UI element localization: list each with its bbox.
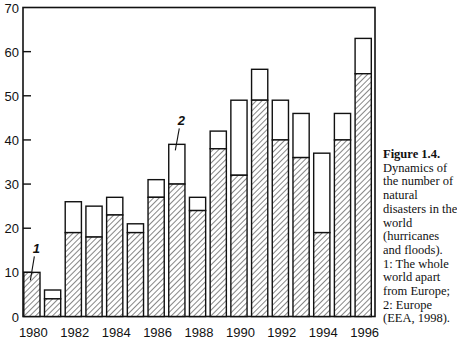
y-tick-label: 60	[5, 45, 19, 60]
x-tick-label: 1996	[350, 325, 379, 340]
caption-line: disasters in the	[383, 203, 457, 217]
bar-segment-world-ex-europe	[127, 233, 143, 317]
bar-1989	[210, 131, 226, 316]
y-tick-label: 20	[5, 221, 19, 236]
bar-1994	[314, 153, 330, 316]
bar-segment-europe	[127, 224, 143, 233]
bar-1987	[169, 144, 185, 316]
x-tick-label: 1994	[309, 325, 338, 340]
bar-1991	[252, 69, 268, 316]
bar-segment-world-ex-europe	[334, 140, 350, 317]
bar-1993	[293, 113, 309, 316]
x-tick-label: 1990	[226, 325, 255, 340]
x-tick-label: 1988	[185, 325, 214, 340]
caption-line: world apart	[383, 271, 457, 285]
caption-line: (hurricanes	[383, 230, 457, 244]
x-axis: 198019821984198619881990199219941996	[19, 325, 379, 340]
bar-1996	[355, 38, 371, 316]
bar-segment-europe	[334, 113, 350, 139]
bar-segment-europe	[148, 180, 164, 198]
caption-line: natural	[383, 189, 457, 203]
bar-segment-europe	[355, 38, 371, 73]
bar-segment-europe	[293, 113, 309, 157]
caption-line: Dynamics of	[383, 162, 457, 176]
bar-segment-world-ex-europe	[189, 211, 205, 317]
bar-1980	[24, 272, 40, 316]
bar-segment-world-ex-europe	[45, 299, 61, 317]
bar-segment-europe	[272, 100, 288, 140]
bar-segment-world-ex-europe	[86, 237, 102, 316]
y-tick-label: 30	[5, 177, 19, 192]
y-tick-label: 50	[5, 89, 19, 104]
bar-segment-europe	[107, 197, 123, 215]
x-tick-label: 1982	[60, 325, 89, 340]
bar-1984	[107, 197, 123, 316]
figure-caption: Figure 1.4. Dynamics of the number of na…	[383, 148, 457, 326]
caption-line: 1: The whole	[383, 258, 457, 272]
x-tick-label: 1984	[102, 325, 131, 340]
bar-1992	[272, 100, 288, 316]
bar-segment-europe	[45, 290, 61, 299]
bars	[24, 38, 372, 316]
bar-segment-world-ex-europe	[231, 175, 247, 316]
bar-segment-europe	[65, 202, 81, 233]
bar-1982	[65, 202, 81, 317]
x-tick-label: 1992	[267, 325, 296, 340]
bar-segment-world-ex-europe	[314, 233, 330, 317]
y-tick-label: 70	[5, 1, 19, 16]
bar-segment-world-ex-europe	[169, 184, 185, 316]
caption-line: (EEA, 1998).	[383, 312, 457, 326]
bar-1990	[231, 100, 247, 316]
bar-segment-europe	[210, 131, 226, 149]
caption-line: the number of	[383, 175, 457, 189]
bar-segment-world-ex-europe	[252, 100, 268, 316]
x-tick-label: 1980	[19, 325, 48, 340]
bar-segment-europe	[169, 144, 185, 184]
bar-1988	[189, 197, 205, 316]
y-tick-label: 10	[5, 265, 19, 280]
bar-segment-europe	[189, 197, 205, 210]
annotation-label: 1	[33, 241, 40, 256]
bar-segment-europe	[231, 100, 247, 175]
caption-title: Figure 1.4.	[383, 148, 457, 162]
x-tick-label: 1986	[143, 325, 172, 340]
bar-segment-world-ex-europe	[210, 149, 226, 317]
bar-segment-world-ex-europe	[65, 233, 81, 317]
bar-1985	[127, 224, 143, 317]
caption-line: and floods).	[383, 244, 457, 258]
y-tick-label: 0	[12, 310, 19, 325]
bar-segment-world-ex-europe	[148, 197, 164, 316]
bar-segment-world-ex-europe	[355, 74, 371, 317]
caption-line: from Europe;	[383, 285, 457, 299]
bar-1981	[45, 290, 61, 316]
bar-segment-world-ex-europe	[24, 272, 40, 316]
caption-line: world	[383, 217, 457, 231]
bar-segment-world-ex-europe	[107, 215, 123, 317]
caption-line: 2: Europe	[383, 299, 457, 313]
bar-1983	[86, 206, 102, 316]
bar-1995	[334, 113, 350, 316]
bar-segment-europe	[86, 206, 102, 237]
bar-1986	[148, 180, 164, 317]
annotation-label: 2	[177, 113, 186, 128]
y-tick-label: 40	[5, 133, 19, 148]
bar-segment-europe	[252, 69, 268, 100]
bar-segment-world-ex-europe	[293, 158, 309, 317]
bar-segment-europe	[314, 153, 330, 232]
bar-segment-world-ex-europe	[272, 140, 288, 317]
